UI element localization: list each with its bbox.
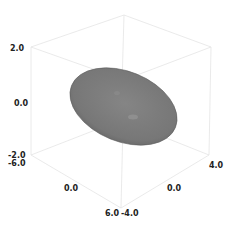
ellipsoid-surface (58, 53, 188, 160)
x-tick-mid: 0.0 (64, 184, 79, 193)
z-tick-top: 2.0 (10, 44, 25, 53)
x-tick-left: -6.0 (8, 159, 26, 168)
ellipsoid-highlight (128, 115, 138, 120)
x-tick-front: 6.0 (105, 209, 120, 218)
ellipsoid-highlight-2 (114, 91, 120, 95)
y-tick-front: -4.0 (121, 209, 139, 218)
z-tick-mid: 0.0 (14, 99, 29, 108)
y-tick-right: 4.0 (209, 161, 224, 170)
3d-plot: 2.0 0.0 -2.0 -6.0 0.0 6.0 -4.0 0.0 4.0 (0, 0, 233, 229)
y-tick-mid: 0.0 (167, 184, 182, 193)
